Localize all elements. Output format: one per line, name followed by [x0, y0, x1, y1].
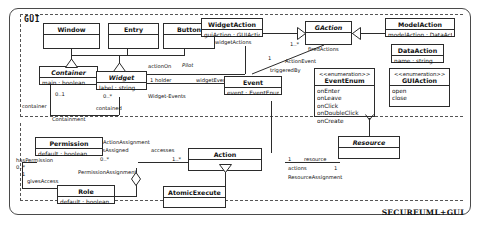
- class-widget-action[interactable]: WidgetAction guiAction : GUIAction: [201, 18, 263, 37]
- enum-literal: onCreate: [317, 118, 372, 125]
- enumeration-gui-action-title: <<enumeration>> GUIAction: [390, 69, 449, 86]
- class-widget-attr-label: label : string: [99, 85, 144, 92]
- class-widget-attrs: label : string: [97, 83, 146, 93]
- class-event-title: Event: [225, 77, 281, 88]
- class-entry-title: Entry: [109, 24, 158, 35]
- class-data-action-title: DataAction: [392, 45, 443, 56]
- class-event-attr-event: event : EventEnum: [227, 90, 279, 97]
- line-widgetaction-gaction: [263, 33, 300, 34]
- label-actions-role: actions: [288, 166, 307, 171]
- label-widget-role-contained: contained: [96, 106, 122, 111]
- class-gaction-attrs: [306, 33, 351, 46]
- label-pilot: Pilot: [182, 63, 193, 68]
- class-model-action-attrs: modelAction : DataAction: [386, 30, 454, 40]
- class-event[interactable]: Event event : EventEnum: [224, 76, 282, 95]
- label-containment: Containment: [52, 117, 86, 122]
- class-entry-attrs: [109, 35, 158, 48]
- class-atomic-execute-attrs: [164, 198, 225, 211]
- label-fired-mult: 1..*: [290, 42, 299, 47]
- class-role[interactable]: Role default : boolean: [57, 185, 115, 204]
- class-permission[interactable]: Permission default : boolean: [35, 137, 103, 156]
- label-has-permission-mult: 0..*: [16, 165, 25, 170]
- uml-diagram-canvas: GUI SECUREUML+GUI: [0, 0, 482, 231]
- class-permission-attrs: default : boolean: [36, 149, 102, 159]
- line-container-contain-v: [50, 84, 51, 115]
- line-widget-widgetaction-h: [147, 74, 245, 75]
- label-container-role: container: [22, 104, 47, 109]
- class-window[interactable]: Window: [43, 23, 100, 49]
- class-gaction[interactable]: GAction: [305, 21, 352, 45]
- class-widget-action-attr-guiaction: guiAction : GUIAction: [204, 32, 260, 39]
- line-widget-widgetaction-v: [245, 46, 246, 74]
- class-data-action-attr-name: name : string: [394, 58, 441, 65]
- line-permassign-h: [114, 196, 137, 197]
- class-data-action-attrs: name : string: [392, 56, 443, 66]
- enumeration-event-enum[interactable]: <<enumeration>> EventEnum onEnter onLeav…: [314, 68, 375, 117]
- class-widget[interactable]: Widget label : string: [96, 71, 147, 90]
- navigation-arrow-resource: [365, 114, 374, 121]
- class-model-action[interactable]: ModelAction modelAction : DataAction: [385, 18, 455, 37]
- class-event-attrs: event : EventEnum: [225, 88, 281, 98]
- enum-literal: onLeave: [317, 95, 372, 102]
- class-model-action-title: ModelAction: [386, 19, 454, 30]
- class-window-attrs: [44, 35, 99, 48]
- label-triggered-by: triggeredBy: [270, 68, 301, 73]
- enumeration-event-enum-title: <<enumeration>> EventEnum: [315, 69, 374, 86]
- generalization-arrow-gaction-right: [352, 27, 361, 40]
- enum-literal: open: [392, 88, 447, 95]
- label-accesses-mult: 1..*: [172, 157, 181, 162]
- class-role-attrs: default : boolean: [58, 197, 114, 207]
- label-widget-actions: widgetActions: [215, 40, 251, 45]
- class-resource-attrs: [339, 148, 399, 161]
- label-gives-access: givesAccess: [27, 179, 58, 184]
- label-resource-mult: 1: [288, 157, 291, 162]
- enum-literal: onDoubleClick: [317, 110, 372, 117]
- label-triggered-mult: 1: [268, 56, 271, 61]
- class-widget-action-title: WidgetAction: [202, 19, 262, 30]
- class-role-attr-default: default : boolean: [60, 199, 112, 206]
- label-action-event: ActionEvent: [285, 59, 316, 64]
- class-widget-action-attrs: guiAction : GUIAction: [202, 30, 262, 40]
- class-entry[interactable]: Entry: [108, 23, 159, 49]
- line-action-atomic: [225, 171, 226, 187]
- line-button-horiz: [119, 55, 185, 56]
- diagram-corner-label: SECUREUML+GUI: [382, 208, 464, 217]
- enum-literal: onClick: [317, 103, 372, 110]
- label-widget-mult: 0..*: [103, 94, 112, 99]
- label-actions-mult: 1: [334, 166, 337, 171]
- class-resource[interactable]: Resource: [338, 136, 400, 159]
- class-window-title: Window: [44, 24, 99, 35]
- class-action-title: Action: [189, 149, 261, 160]
- label-resource-assignment: ResourceAssignment: [288, 175, 342, 180]
- class-resource-title: Resource: [339, 137, 399, 148]
- generalization-arrow-atomicexecute: [219, 164, 232, 173]
- class-permission-attr-default: default : boolean: [38, 151, 100, 158]
- label-resource-role: resource: [304, 157, 326, 162]
- label-is-assigned: isAssigned: [101, 148, 129, 153]
- class-container[interactable]: Container main : boolean: [39, 66, 98, 85]
- label-action-assignment: ActionAssignment: [103, 140, 150, 145]
- class-atomic-execute[interactable]: AtomicExecute: [163, 186, 226, 208]
- line-event-action: [271, 101, 272, 153]
- class-permission-title: Permission: [36, 138, 102, 149]
- enum-literal: close: [392, 95, 447, 102]
- class-container-title: Container: [40, 67, 97, 78]
- class-model-action-attr: modelAction : DataAction: [388, 32, 452, 39]
- enumeration-gui-action[interactable]: <<enumeration>> GUIAction open close: [389, 68, 450, 107]
- label-fired-actions: firedActions: [308, 47, 339, 52]
- label-widget-events-assoc: Widget-Events: [148, 94, 186, 99]
- label-action-on: actionOn: [148, 64, 171, 69]
- label-gives-access-mult: 1: [22, 172, 25, 177]
- class-container-attrs: main : boolean: [40, 78, 97, 88]
- generalization-arrow-gaction-left: [297, 27, 306, 40]
- generalization-arrow-widget: [113, 63, 126, 72]
- label-holder-mult: 1 holder: [150, 78, 171, 83]
- package-label-gui: GUI: [24, 15, 40, 24]
- class-gaction-title: GAction: [306, 22, 351, 33]
- class-data-action[interactable]: DataAction name : string: [391, 44, 444, 63]
- aggregation-diamond-permission: [131, 172, 141, 186]
- enumeration-event-enum-name: EventEnum: [325, 77, 365, 84]
- enumeration-gui-action-name: GUIAction: [402, 77, 437, 84]
- enumeration-gui-action-literals: open close: [390, 86, 449, 104]
- class-atomic-execute-title: AtomicExecute: [164, 187, 225, 198]
